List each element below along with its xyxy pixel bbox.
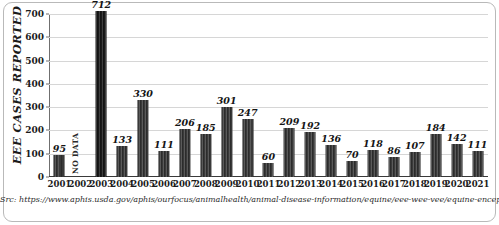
bar-slot: 111	[154, 14, 175, 177]
bar-slot: 133	[112, 14, 133, 177]
bar-slot: 86	[383, 14, 404, 177]
bar[interactable]	[451, 144, 462, 177]
bar-slot: 184	[425, 14, 446, 177]
bar-value-label: 142	[447, 132, 467, 143]
bar-slot: 330	[133, 14, 154, 177]
bar[interactable]	[117, 146, 128, 177]
bar-slot: 185	[195, 14, 216, 177]
bar-slot: 301	[216, 14, 237, 177]
plot-area: 7006005004003002001000 95NO DATA71213333…	[49, 14, 488, 177]
bar-value-label: 136	[321, 133, 341, 144]
bar-value-label: 111	[468, 139, 488, 150]
bar-slot: 107	[404, 14, 425, 177]
bar[interactable]	[263, 163, 274, 177]
bar-value-label: 192	[300, 120, 320, 131]
bar[interactable]	[388, 157, 399, 177]
bar-slot: 209	[279, 14, 300, 177]
y-tick-label: 300	[25, 102, 44, 112]
bar[interactable]	[179, 129, 190, 177]
x-tick-label: 2021	[466, 179, 490, 189]
bar[interactable]	[305, 132, 316, 177]
bar-value-label: 206	[175, 117, 195, 128]
y-tick-label: 100	[25, 149, 44, 159]
bar-value-label: 185	[196, 122, 216, 133]
bar[interactable]	[138, 100, 149, 177]
bar-slot: 136	[321, 14, 342, 177]
bar[interactable]	[472, 151, 483, 177]
bar-value-label: 712	[91, 0, 111, 10]
bar-value-label: 118	[363, 138, 383, 149]
bar-slot: 206	[174, 14, 195, 177]
chart-figure: EEE CASES REPORTED 700600500400300200100…	[0, 0, 499, 225]
bar-value-label: 247	[238, 107, 258, 118]
bar-slot: 142	[446, 14, 467, 177]
bar-value-label: 95	[53, 143, 66, 154]
bar-value-label: 301	[217, 95, 237, 106]
y-axis-title: EEE CASES REPORTED	[10, 5, 24, 165]
y-tick-label: 0	[38, 172, 44, 182]
bar-slot: 70	[342, 14, 363, 177]
bar-value-label: 209	[279, 116, 299, 127]
source-caption: Src: https://www.aphis.usda.gov/aphis/ou…	[0, 195, 499, 204]
bar[interactable]	[368, 150, 379, 177]
y-tick-label: 700	[25, 9, 44, 19]
bar-value-label: 107	[405, 140, 425, 151]
x-axis-ticks: 2001200220032004200520062007200820092010…	[49, 179, 488, 193]
y-tick-label: 600	[25, 32, 44, 42]
bar[interactable]	[326, 145, 337, 177]
bar-value-label: 70	[345, 149, 358, 160]
bar-series: 95NO DATA7121333301112061853012476020919…	[49, 14, 488, 177]
bar[interactable]	[200, 134, 211, 177]
bar-value-label: 330	[133, 88, 153, 99]
bar[interactable]	[221, 107, 232, 177]
y-tick-label: 200	[25, 125, 44, 135]
y-tick-label: 400	[25, 79, 44, 89]
bar[interactable]	[54, 155, 65, 177]
y-tick-label: 500	[25, 56, 44, 66]
bar-value-label: 60	[262, 151, 275, 162]
bar[interactable]	[284, 128, 295, 177]
bar[interactable]	[158, 151, 169, 177]
bar-value-label: 111	[154, 139, 174, 150]
bar[interactable]	[430, 134, 441, 177]
bar-slot: NO DATA	[70, 14, 91, 177]
bar-slot: 111	[467, 14, 488, 177]
bar[interactable]	[409, 152, 420, 177]
bar[interactable]	[347, 161, 358, 177]
bar-value-label: 133	[112, 134, 132, 145]
bar-slot: 95	[49, 14, 70, 177]
bar-slot: 118	[363, 14, 384, 177]
bar[interactable]	[96, 11, 107, 177]
no-data-annotation: NO DATA	[71, 133, 80, 174]
bar-slot: 60	[258, 14, 279, 177]
bar-slot: 192	[300, 14, 321, 177]
bar-slot: 712	[91, 14, 112, 177]
bar[interactable]	[242, 119, 253, 177]
bar-value-label: 86	[387, 145, 400, 156]
bar-slot: 247	[237, 14, 258, 177]
bar-value-label: 184	[426, 122, 446, 133]
